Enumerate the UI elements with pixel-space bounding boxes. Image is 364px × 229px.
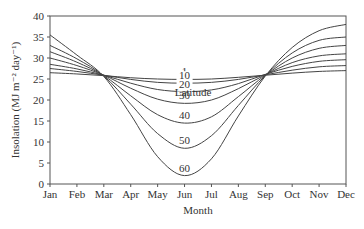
y-axis-label: Insolation (MJ m⁻² day⁻¹) xyxy=(9,42,22,159)
x-tick-label: Feb xyxy=(69,188,86,200)
x-tick-label: Apr xyxy=(122,188,139,200)
x-axis: JanFebMarAprMayJunJulAugSepOctNovDec xyxy=(43,184,355,200)
series-lines xyxy=(50,24,346,175)
y-tick-label: 5 xyxy=(39,157,45,169)
x-tick-label: Sep xyxy=(257,188,274,200)
x-tick-label: Jun xyxy=(177,188,193,200)
x-tick-label: Jul xyxy=(205,188,218,200)
y-tick-label: 25 xyxy=(33,73,45,85)
x-tick-label: Nov xyxy=(310,188,329,200)
x-tick-label: Dec xyxy=(337,188,355,200)
series-label-lat-60: 60 xyxy=(179,162,191,174)
y-axis: 0510152025303540 xyxy=(33,10,50,190)
y-tick-label: 40 xyxy=(33,10,45,22)
x-tick-label: Aug xyxy=(229,188,248,200)
series-label-lat-40: 40 xyxy=(179,109,191,121)
x-tick-label: May xyxy=(148,188,169,200)
plot-frame xyxy=(50,16,346,184)
x-axis-label: Month xyxy=(183,204,213,216)
series-line-lat-40 xyxy=(50,45,346,123)
y-tick-label: 10 xyxy=(33,136,45,148)
x-tick-label: Jan xyxy=(43,188,58,200)
x-tick-label: Mar xyxy=(95,188,114,200)
y-tick-label: 15 xyxy=(33,115,45,127)
series-labels: 1102030405060 xyxy=(177,65,193,173)
y-tick-label: 20 xyxy=(33,94,45,106)
insolation-line-chart: 0510152025303540 JanFebMarAprMayJunJulAu… xyxy=(0,0,364,229)
series-label-lat-50: 50 xyxy=(179,134,191,146)
y-tick-label: 35 xyxy=(33,31,45,43)
x-tick-label: Oct xyxy=(284,188,300,200)
legend-title: Latitude xyxy=(175,86,212,98)
y-tick-label: 30 xyxy=(33,52,45,64)
